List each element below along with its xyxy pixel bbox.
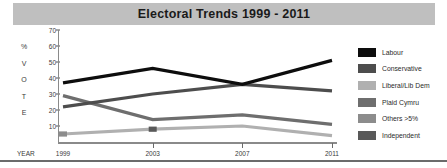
x-tick-label: 2007: [235, 150, 249, 157]
series-marker: [59, 131, 67, 136]
legend-item[interactable]: Conservative: [358, 61, 447, 78]
legend: LabourConservativeLiberal/Lib DemPlaid C…: [358, 44, 447, 144]
y-tick-label: 20: [49, 107, 56, 114]
y-axis-title-char: V: [22, 56, 27, 73]
legend-item-label: Plaid Cymru: [382, 99, 419, 106]
legend-item-label: Labour: [382, 49, 403, 56]
x-tick-mark: [242, 143, 243, 148]
bottom-divider: [0, 160, 447, 162]
legend-item[interactable]: Others >5%: [358, 110, 447, 127]
y-axis-title: % V O T E: [17, 39, 31, 122]
legend-swatch-icon: [358, 81, 376, 90]
y-tick-label: 30: [49, 91, 56, 98]
page-title: Electoral Trends 1999 - 2011: [138, 7, 310, 21]
x-axis-name: YEAR: [17, 150, 35, 157]
x-tick-mark: [332, 143, 333, 148]
legend-item[interactable]: Liberal/Lib Dem: [358, 77, 447, 94]
legend-item-label: Independent: [382, 132, 420, 139]
series-line: [63, 126, 332, 136]
series-line: [63, 60, 332, 84]
y-tick-label: 60: [49, 43, 56, 50]
legend-item-label: Others >5%: [382, 115, 418, 122]
legend-item[interactable]: Independent: [358, 127, 447, 144]
legend-swatch-icon: [358, 98, 376, 107]
x-tick-label: 2011: [325, 150, 339, 157]
y-axis-title-char: E: [22, 105, 27, 122]
plot-area: [59, 30, 336, 142]
y-axis-ticks: 10203040506070: [36, 27, 58, 139]
x-tick-label: 1999: [56, 150, 70, 157]
legend-swatch-icon: [358, 48, 376, 57]
legend-swatch-icon: [358, 131, 376, 140]
y-tick-label: 50: [49, 59, 56, 66]
electoral-trends-chart: Electoral Trends 1999 - 2011 % V O T E 1…: [0, 0, 447, 168]
legend-swatch-icon: [358, 114, 376, 123]
x-tick-label: 2003: [145, 150, 159, 157]
series-lines: [59, 30, 336, 142]
y-axis-title-char: T: [22, 89, 26, 106]
series-line: [63, 84, 332, 106]
legend-item-label: Conservative: [382, 65, 422, 72]
y-tick-label: 40: [49, 75, 56, 82]
chart-title-bar: Electoral Trends 1999 - 2011: [13, 3, 435, 25]
y-axis-title-char: O: [21, 72, 26, 89]
y-tick-label: 10: [49, 123, 56, 130]
legend-swatch-icon: [358, 64, 376, 73]
series-marker: [149, 127, 157, 132]
legend-item[interactable]: Labour: [358, 44, 447, 61]
y-tick-label: 70: [49, 27, 56, 34]
x-tick-mark: [153, 143, 154, 148]
x-axis-line: [58, 142, 337, 144]
legend-item-label: Liberal/Lib Dem: [382, 82, 430, 89]
y-axis-title-char: %: [21, 39, 27, 56]
legend-item[interactable]: Plaid Cymru: [358, 94, 447, 111]
